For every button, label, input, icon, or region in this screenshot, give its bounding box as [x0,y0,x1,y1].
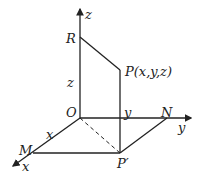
o-to-pprime-dashed [80,118,120,153]
point-m-label: M [19,144,32,157]
point-p-label: P(x,y,z) [125,65,172,78]
z-axis-label: z [85,8,92,21]
coordinate-diagram: z R P(x,y,z) z O y N y x M P′ x [0,0,199,185]
point-pprime-label: P′ [117,157,129,170]
point-n-label: N [161,106,172,119]
origin-label: O [66,106,77,119]
x-axis-label: x [22,160,29,173]
x-length-label: x [46,128,53,141]
y-axis-label: y [178,121,185,134]
point-r-label: R [66,32,76,45]
pprime-to-n-line [120,118,167,153]
y-length-label: y [124,106,131,119]
r-to-p-line [80,37,120,70]
z-length-label: z [67,76,74,89]
